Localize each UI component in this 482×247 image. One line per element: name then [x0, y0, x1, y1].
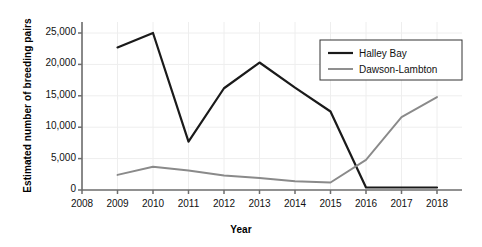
y-axis-title: Estimated number of breeding pairs: [22, 16, 33, 196]
chart-legend: Halley BayDawson-Lambton: [320, 40, 462, 80]
chart-figure: Estimated number of breeding pairs Year …: [0, 0, 482, 247]
y-tick-label: 5,000: [24, 152, 76, 163]
y-tick-label: 25,000: [24, 26, 76, 37]
y-tick-label: 20,000: [24, 57, 76, 68]
series-line-dawson-lambton: [118, 97, 438, 182]
y-tick-label: 15,000: [24, 89, 76, 100]
legend-label-halley-bay: Halley Bay: [359, 48, 407, 59]
x-axis-title: Year: [0, 224, 482, 235]
y-tick-label: 0: [24, 183, 76, 194]
x-tick-label: 2018: [415, 198, 459, 209]
legend-label-dawson-lambton: Dawson-Lambton: [359, 64, 437, 75]
y-tick-label: 10,000: [24, 120, 76, 131]
